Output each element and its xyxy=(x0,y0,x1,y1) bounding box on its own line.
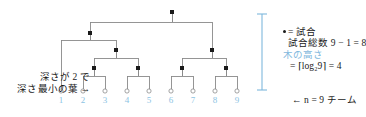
leaf-node-4 xyxy=(125,89,129,93)
edge-LR-LRL xyxy=(94,50,116,68)
edge-R-RR xyxy=(212,50,226,68)
match-node-L xyxy=(88,31,93,36)
edge-LR-LRR xyxy=(116,50,138,68)
match-node-LR xyxy=(114,48,119,53)
leaf-label-4: 4 xyxy=(121,96,133,105)
min-depth-leaf-line2: 深さ最小の葉 → xyxy=(6,84,90,96)
match-node-R xyxy=(210,48,215,53)
leaf-label-1: 1 xyxy=(55,96,67,105)
match-legend: = 試合 xyxy=(283,27,316,39)
edge-RR-leaf8 xyxy=(215,68,226,90)
leaf-label-2: 2 xyxy=(77,96,89,105)
leaf-label-9: 9 xyxy=(231,96,243,105)
leaf-node-9 xyxy=(235,89,239,93)
tournament-tree-figure: 深さが 2 で 深さ最小の葉 → = 試合 試合総数 9 − 1 = 8 木の高… xyxy=(0,0,366,117)
leaf-label-8: 8 xyxy=(209,96,221,105)
edge-root-right xyxy=(172,12,212,50)
edge-RL-leaf6 xyxy=(171,68,182,90)
edge-left-LR xyxy=(90,33,116,50)
leaf-node-3 xyxy=(103,89,107,93)
match-node-LRL xyxy=(92,66,97,71)
tree-height-label: 木の高さ xyxy=(283,50,323,62)
edge-R-RL xyxy=(182,50,212,68)
match-node-RR xyxy=(224,66,229,71)
match-node-RL xyxy=(180,66,185,71)
leaf-node-6 xyxy=(169,89,173,93)
min-depth-leaf-annotation: 深さが 2 で 深さ最小の葉 → xyxy=(6,72,90,95)
match-node-root xyxy=(170,10,175,15)
leaf-node-7 xyxy=(191,89,195,93)
match-total-text: 試合総数 9 − 1 = 8 xyxy=(288,38,366,50)
edge-root-left xyxy=(90,12,172,33)
tree-height-formula: = ⌈log₂9⌉ = 4 xyxy=(290,61,342,73)
leaf-node-5 xyxy=(147,89,151,93)
match-dot-icon xyxy=(283,30,286,33)
leaf-label-6: 6 xyxy=(165,96,177,105)
edge-RR-leaf9 xyxy=(226,68,237,90)
leaf-label-7: 7 xyxy=(187,96,199,105)
match-legend-text: = 試合 xyxy=(288,27,316,37)
min-depth-leaf-line1: 深さが 2 で xyxy=(6,72,90,84)
match-node-LRR xyxy=(136,66,141,71)
tree-height-bracket xyxy=(257,14,267,90)
edge-RL-leaf7 xyxy=(182,68,193,90)
edge-LRR-leaf5 xyxy=(138,68,149,90)
leaf-node-8 xyxy=(213,89,217,93)
leaf-label-3: 3 xyxy=(99,96,111,105)
leaf-label-5: 5 xyxy=(143,96,155,105)
edge-LRR-leaf4 xyxy=(127,68,138,90)
edge-LRL-leaf3 xyxy=(94,68,105,90)
teams-count-note: ← n = 9 チーム xyxy=(292,95,357,107)
